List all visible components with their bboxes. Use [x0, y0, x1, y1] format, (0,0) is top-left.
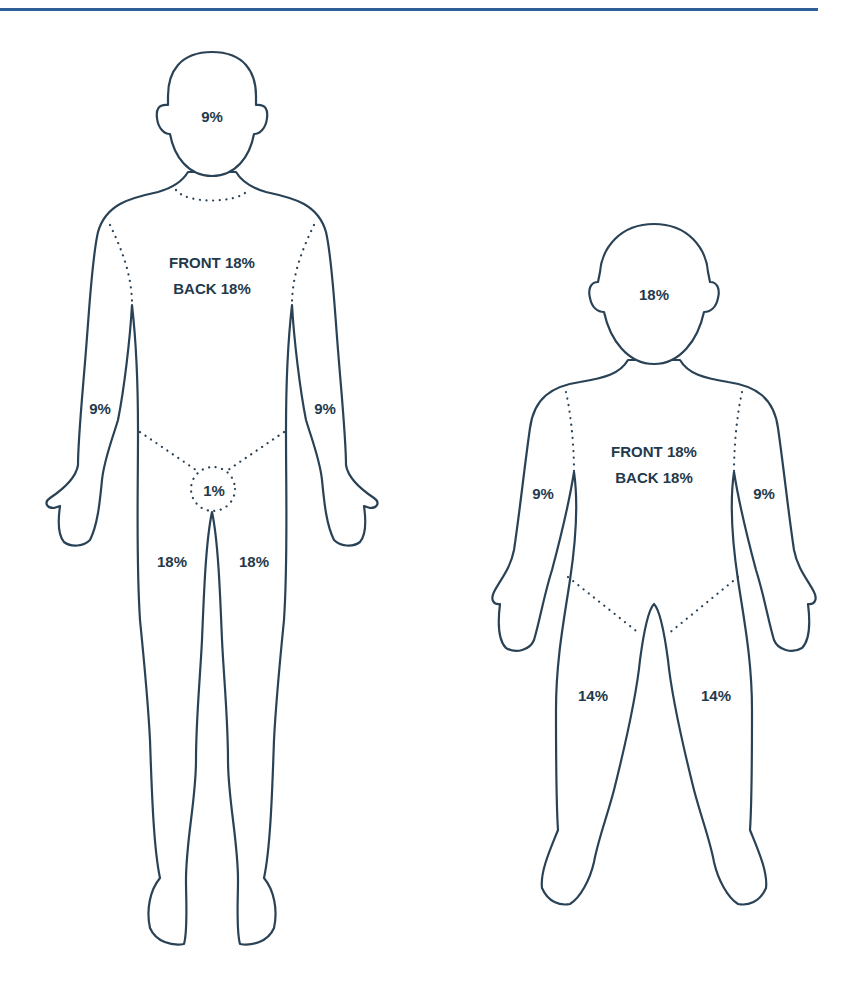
child-trunk-front-label: FRONT 18%: [611, 443, 697, 460]
adult-right-arm-label: 9%: [314, 400, 336, 417]
child-right-leg-label: 14%: [701, 687, 731, 704]
adult-head-label: 9%: [201, 108, 223, 125]
child-head-label: 18%: [639, 286, 669, 303]
adult-left-leg-label: 18%: [157, 553, 187, 570]
child-left-arm-label: 9%: [532, 485, 554, 502]
adult-right-leg-label: 18%: [239, 553, 269, 570]
child-left-leg-label: 14%: [578, 687, 608, 704]
adult-left-arm-label: 9%: [89, 400, 111, 417]
child-trunk-back-label: BACK 18%: [615, 469, 693, 486]
child-figure: 18% FRONT 18% BACK 18% 9% 9% 14% 14%: [492, 224, 815, 904]
adult-trunk-back-label: BACK 18%: [173, 280, 251, 297]
child-body-outline: [492, 360, 815, 904]
child-right-arm-label: 9%: [753, 485, 775, 502]
adult-trunk-front-label: FRONT 18%: [169, 254, 255, 271]
adult-figure: 9% FRONT 18% BACK 18% 9% 9% 1% 18% 18%: [47, 52, 378, 944]
adult-groin-label: 1%: [203, 482, 225, 499]
body-diagram: 9% FRONT 18% BACK 18% 9% 9% 1% 18% 18% 1…: [0, 0, 850, 984]
